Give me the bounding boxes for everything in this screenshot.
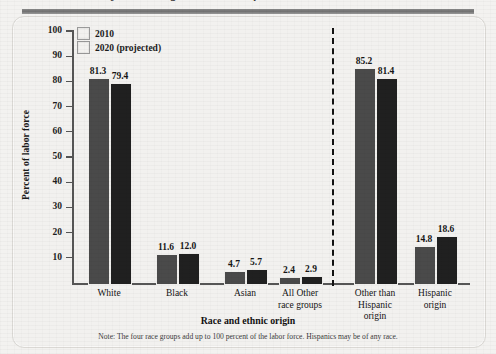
category-label-black: Black [138,288,216,300]
legend-swatch-2010 [78,28,89,39]
y-tick-label-20: 20 [32,227,62,237]
legend-swatch-2020 [78,42,89,53]
y-axis-title: Percent of labor force [21,85,31,225]
y-tick-100 [66,30,72,31]
category-label-line: All Other [261,288,339,300]
bar-asian-2020-projected- [246,269,268,285]
y-tick-40 [66,182,72,183]
bar-value-label: 18.6 [426,224,466,234]
y-tick-60 [66,131,72,132]
bar-hispanic-origin-2010 [414,246,436,285]
category-label-line: origin [396,300,474,312]
y-tick-80 [66,81,72,82]
y-tick-70 [66,106,72,107]
bar-black-2010 [156,254,178,285]
y-tick-30 [66,207,72,208]
bar-white-2010 [88,78,110,285]
y-tick-label-90: 90 [32,50,62,60]
legend-item-2010: 2010 [78,28,161,39]
bar-hispanic-origin-2020-projected- [436,236,458,285]
bar-value-label: 12.0 [168,241,208,251]
bar-asian-2010 [224,271,246,285]
y-tick-20 [66,232,72,233]
bar-black-2020-projected- [178,253,200,285]
y-axis-line [72,30,74,284]
x-axis-title: Race and ethnic origin [0,315,496,326]
bar-all-other-race-groups-2020-projected- [301,276,323,285]
y-tick-label-100: 100 [32,25,62,35]
category-label-white: White [70,288,148,300]
bar-value-label: 79.4 [100,71,140,81]
y-tick-90 [66,56,72,57]
category-label-all-other-race-groups: All Otherrace groups [261,288,339,311]
legend-label-2010: 2010 [95,29,114,39]
y-tick-label-50: 50 [32,151,62,161]
category-label-hispanic-origin: Hispanicorigin [396,288,474,311]
scanned-page: EXHIBIT 5.12 Projected changes in the la… [0,0,496,354]
figure-note: Note: The four race groups add up to 100… [0,332,496,341]
bar-all-other-race-groups-2010 [279,277,301,285]
y-tick-label-70: 70 [32,101,62,111]
chart-legend: 2010 2020 (projected) [78,28,161,56]
category-label-line: Hispanic [396,288,474,300]
category-label-line: White [70,288,148,300]
y-tick-label-10: 10 [32,252,62,262]
bar-white-2020-projected- [110,83,132,285]
group-divider-dashed-line [332,28,334,286]
y-tick-label-80: 80 [32,75,62,85]
bar-chart: Percent of labor force 10203040506070809… [0,0,496,354]
y-tick-10 [66,257,72,258]
y-tick-50 [66,156,72,157]
category-label-line: race groups [261,300,339,312]
bar-value-label: 81.4 [366,66,406,76]
bar-value-label: 2.9 [291,264,331,274]
category-label-line: Black [138,288,216,300]
y-tick-label-60: 60 [32,126,62,136]
bar-value-label: 85.2 [344,56,384,66]
bar-other-than-hispanic-origin-2010 [354,68,376,285]
bar-other-than-hispanic-origin-2020-projected- [376,78,398,285]
legend-label-2020: 2020 (projected) [95,43,161,53]
y-tick-label-40: 40 [32,176,62,186]
legend-item-2020: 2020 (projected) [78,42,161,53]
y-tick-label-30: 30 [32,201,62,211]
